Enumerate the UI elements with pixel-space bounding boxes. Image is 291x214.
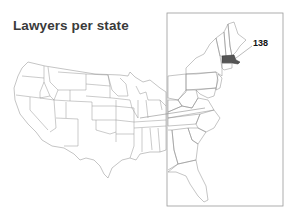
value-leader-line xyxy=(236,46,252,58)
us-outline xyxy=(14,62,166,178)
massachusetts-state xyxy=(222,55,240,64)
us-map xyxy=(0,0,291,214)
main-map xyxy=(14,62,205,178)
massachusetts-value-label: 138 xyxy=(253,38,268,48)
